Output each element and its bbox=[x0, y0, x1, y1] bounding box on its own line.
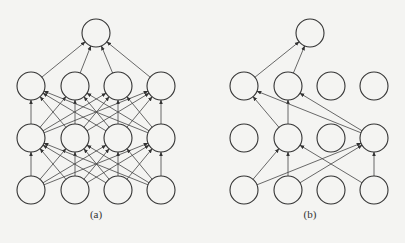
hidden1-node bbox=[274, 124, 302, 152]
connection-arrow bbox=[257, 143, 361, 185]
connection-arrow bbox=[80, 46, 91, 73]
input-node bbox=[61, 176, 89, 204]
connection-arrow bbox=[253, 97, 279, 128]
connection-arrow bbox=[107, 42, 150, 77]
caption-a: (a) bbox=[90, 208, 103, 221]
panel-dropout-net bbox=[230, 19, 388, 204]
connection-arrow bbox=[255, 42, 299, 77]
hidden2-node bbox=[274, 72, 302, 100]
output-node bbox=[296, 19, 324, 47]
connection-arrow bbox=[101, 46, 112, 73]
dropout-diagram: (a) (b) bbox=[0, 0, 405, 243]
hidden1-node bbox=[360, 124, 388, 152]
hidden2-node-dropped bbox=[360, 72, 388, 100]
input-node bbox=[104, 176, 132, 204]
input-node bbox=[360, 176, 388, 204]
input-node bbox=[147, 176, 175, 204]
caption-b: (b) bbox=[304, 208, 317, 221]
hidden1-node bbox=[147, 124, 175, 152]
input-node bbox=[274, 176, 302, 204]
hidden1-node bbox=[104, 124, 132, 152]
input-node bbox=[17, 176, 45, 204]
connection-arrow bbox=[253, 149, 279, 180]
hidden2-node-dropped bbox=[317, 72, 345, 100]
hidden2-node bbox=[61, 72, 89, 100]
hidden2-node bbox=[230, 72, 258, 100]
hidden2-node bbox=[104, 72, 132, 100]
hidden2-node bbox=[17, 72, 45, 100]
hidden1-node-dropped bbox=[230, 124, 258, 152]
hidden1-node bbox=[17, 124, 45, 152]
input-node bbox=[230, 176, 258, 204]
hidden1-node bbox=[61, 124, 89, 152]
connection-arrow bbox=[293, 46, 304, 73]
hidden2-node bbox=[147, 72, 175, 100]
connection-arrow bbox=[257, 91, 361, 133]
panel-standard-net bbox=[17, 19, 175, 204]
output-node bbox=[82, 19, 110, 47]
hidden1-node-dropped bbox=[317, 124, 345, 152]
connection-arrow bbox=[42, 42, 85, 77]
input-node-dropped bbox=[317, 176, 345, 204]
